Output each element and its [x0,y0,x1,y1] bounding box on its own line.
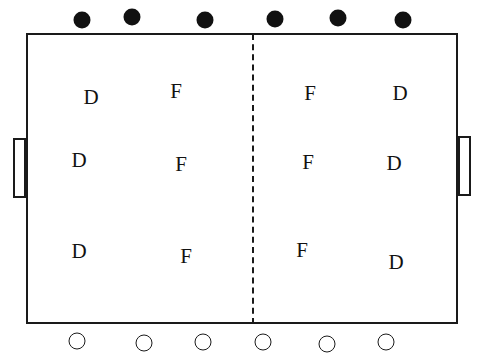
defender-label: D [386,153,401,174]
player-open-icon [195,334,212,351]
defender-label: D [71,241,86,262]
defender-label: D [392,83,407,104]
center-line [252,34,254,324]
defender-label: D [83,87,98,108]
forward-label: F [304,83,316,104]
forward-label: F [296,240,308,261]
player-filled-icon [267,11,284,28]
forward-label: F [175,154,187,175]
goal-left [13,138,26,198]
forward-label: F [170,81,182,102]
player-filled-icon [330,10,347,27]
player-open-icon [136,335,153,352]
player-open-icon [378,334,395,351]
defender-label: D [388,252,403,273]
goal-right [458,136,471,196]
defender-label: D [71,150,86,171]
player-open-icon [255,334,272,351]
playing-field [26,33,458,324]
player-filled-icon [74,12,91,29]
player-open-icon [69,333,86,350]
forward-label: F [180,246,192,267]
player-filled-icon [124,9,141,26]
forward-label: F [302,152,314,173]
player-filled-icon [197,12,214,29]
player-open-icon [319,336,336,353]
player-filled-icon [395,12,412,29]
